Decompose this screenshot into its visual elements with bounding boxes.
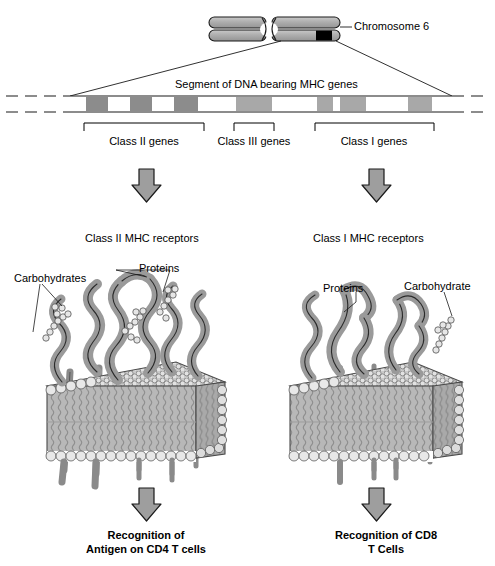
class1-carbohydrate-label: Carbohydrate xyxy=(404,280,471,293)
bracket-class2 xyxy=(84,123,204,131)
gene-band-class3 xyxy=(236,97,272,111)
class1-outcome-line2: T Cells xyxy=(286,542,486,556)
class2-panel-heading: Class II MHC receptors xyxy=(85,232,199,245)
centromere xyxy=(260,22,278,37)
class2-proteins-label: Proteins xyxy=(139,262,179,275)
class1-panel-heading: Class I MHC receptors xyxy=(313,232,424,245)
class1-carbohydrate-chain xyxy=(433,317,454,353)
class1-genes-label: Class I genes xyxy=(314,135,434,148)
gene-band-class2 xyxy=(86,97,108,111)
mhc-figure: Chromosome 6 Segment of DNA bearing MHC … xyxy=(0,0,495,566)
gene-band-class1 xyxy=(408,97,432,111)
class1-membrane-assembly xyxy=(289,286,464,482)
class1-proteins-label: Proteins xyxy=(323,282,363,295)
flow-arrow-right xyxy=(362,169,391,202)
dna-segment xyxy=(6,96,489,131)
class-bracket-group xyxy=(84,123,434,131)
bracket-class1 xyxy=(315,123,434,131)
chromosome-title-label: Chromosome 6 xyxy=(354,20,429,33)
chromatid-arm-lower-left xyxy=(209,30,266,41)
mhc-locus-band xyxy=(316,31,332,41)
class1-cytoplasmic-tails xyxy=(340,460,396,482)
gene-band-class1 xyxy=(340,97,366,111)
dna-segment-label: Segment of DNA bearing MHC genes xyxy=(175,78,358,91)
class1-outcome-line1: Recognition of CD8 xyxy=(286,528,486,542)
gene-band-class2 xyxy=(174,97,198,111)
class2-cytoplasmic-tails xyxy=(62,460,172,486)
chromatid-arm-upper-left xyxy=(209,17,266,28)
bracket-class3 xyxy=(234,123,274,131)
flow-arrow-left xyxy=(132,169,161,202)
class2-outcome-line1: Recognition of xyxy=(46,528,246,542)
class2-membrane-assembly xyxy=(33,270,227,486)
outcome-arrow-right xyxy=(362,488,391,521)
class3-genes-label: Class III genes xyxy=(194,135,314,148)
outcome-arrow-left xyxy=(132,488,161,521)
gene-band-class2 xyxy=(130,97,152,111)
class2-carbohydrates-label: Carbohydrates xyxy=(14,272,86,285)
class2-outcome-line2: Antigen on CD4 T cells xyxy=(46,542,246,556)
chromatid-arm-upper-right xyxy=(272,17,340,28)
gene-band-class1 xyxy=(317,97,333,111)
class2-genes-label: Class II genes xyxy=(84,135,204,148)
